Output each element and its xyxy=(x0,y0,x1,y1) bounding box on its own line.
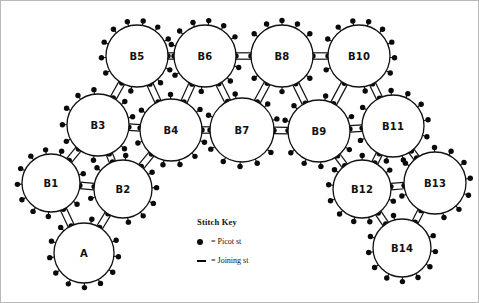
picot-dot xyxy=(172,72,177,77)
ring-label-b12: B12 xyxy=(351,184,373,195)
joining-stitch-rail xyxy=(350,131,362,132)
picot-dot xyxy=(391,198,396,203)
picot-dot xyxy=(291,103,296,108)
picot-dot xyxy=(190,20,195,25)
joining-stitch-rail xyxy=(340,154,347,164)
ring-label-a: A xyxy=(80,248,88,259)
picot-dot xyxy=(366,19,371,24)
joining-stitch-rail xyxy=(144,156,154,168)
picot-dot xyxy=(360,153,365,158)
picot-dot xyxy=(126,219,131,224)
ring-label-b11: B11 xyxy=(382,121,404,132)
picot-dot xyxy=(75,93,80,98)
picot-dot-icon xyxy=(197,239,211,245)
picot-dot xyxy=(400,279,405,284)
picot-dot xyxy=(46,214,51,219)
picot-dot xyxy=(130,114,135,119)
picot-dot xyxy=(168,92,173,97)
picot-dot xyxy=(30,209,35,214)
picot-dot xyxy=(59,148,64,153)
picot-dot xyxy=(158,80,163,85)
picot-dot xyxy=(456,207,461,212)
picot-dot xyxy=(149,170,154,175)
ring-label-b10: B10 xyxy=(348,51,370,62)
picot-dot xyxy=(102,39,107,44)
picot-dot xyxy=(288,150,293,155)
picot-dot xyxy=(94,165,99,170)
picot-dot xyxy=(415,275,420,280)
picot-dot xyxy=(432,145,437,150)
picot-dot xyxy=(424,134,429,139)
picot-dot xyxy=(53,270,58,275)
picot-dot xyxy=(325,36,330,41)
picot-dot xyxy=(221,23,226,28)
picot-dot xyxy=(128,88,133,93)
picot-dot xyxy=(279,18,284,23)
ring-label-b3: B3 xyxy=(91,120,106,131)
picot-dot xyxy=(328,198,333,203)
joining-stitch-rail xyxy=(110,81,118,96)
ring-label-b13: B13 xyxy=(424,178,446,189)
picot-dot xyxy=(360,105,365,110)
picot-dot xyxy=(58,225,63,230)
picot-dot xyxy=(89,217,94,222)
joining-stitch-rail xyxy=(72,151,81,162)
picot-dot xyxy=(389,39,394,44)
picot-dot xyxy=(441,215,446,220)
picot-dot xyxy=(228,78,233,83)
picot-dot xyxy=(140,18,145,23)
picot-dot xyxy=(362,88,367,93)
picot-dot xyxy=(122,146,127,151)
picot-dot xyxy=(208,146,213,151)
joining-stitch xyxy=(331,81,347,107)
picot-dot xyxy=(350,18,355,23)
joining-stitch-rail xyxy=(376,215,383,226)
picot-dot xyxy=(74,202,79,207)
joining-stitch-rail xyxy=(187,86,195,104)
picot-dot xyxy=(140,213,145,218)
picot-dot xyxy=(43,147,48,152)
picot-dot xyxy=(323,93,328,98)
picot-dot xyxy=(237,164,242,169)
picot-dot xyxy=(274,116,279,121)
joining-stitch-rail xyxy=(80,189,94,190)
picot-dot xyxy=(466,192,471,197)
picot-dot xyxy=(372,265,377,270)
picot-dot xyxy=(387,167,392,172)
legend-item-joining: = Joining st xyxy=(197,254,307,267)
picot-dot xyxy=(232,91,237,96)
picot-dot xyxy=(403,160,408,165)
joining-stitch-rail xyxy=(378,155,383,164)
ring-label-b5: B5 xyxy=(130,51,145,62)
picot-dot xyxy=(19,197,24,202)
picot-dot xyxy=(98,281,103,286)
picot-dot xyxy=(251,31,256,36)
picot-dot xyxy=(366,250,371,255)
picot-dot xyxy=(116,254,121,259)
joining-stitch-rail xyxy=(139,152,149,164)
picot-dot xyxy=(336,24,341,29)
joining-stitch-rail xyxy=(370,85,377,99)
picot-dot xyxy=(326,182,331,187)
picot-dot xyxy=(351,219,356,224)
joining-stitch-rail xyxy=(381,211,388,222)
legend-item-picot-label: = Picot st xyxy=(211,237,241,246)
joining-stitch-rail xyxy=(391,189,404,190)
joining-stitch-rail xyxy=(216,85,225,103)
picot-dot xyxy=(91,87,96,92)
picot-dot xyxy=(169,42,174,47)
joining-stitch xyxy=(293,81,308,106)
picot-dot xyxy=(206,113,211,118)
picot-dot xyxy=(60,122,65,127)
picot-dot xyxy=(88,196,93,201)
picot-dot xyxy=(166,36,171,41)
picot-dot xyxy=(197,107,202,112)
picot-dot xyxy=(155,24,160,29)
picot-dot xyxy=(264,21,269,26)
picot-dot xyxy=(332,167,337,172)
picot-dot xyxy=(418,102,423,107)
picot-dot xyxy=(135,140,140,145)
ring-label-b9: B9 xyxy=(312,126,327,137)
picot-dot xyxy=(388,88,393,93)
joining-dash-icon xyxy=(197,260,211,262)
